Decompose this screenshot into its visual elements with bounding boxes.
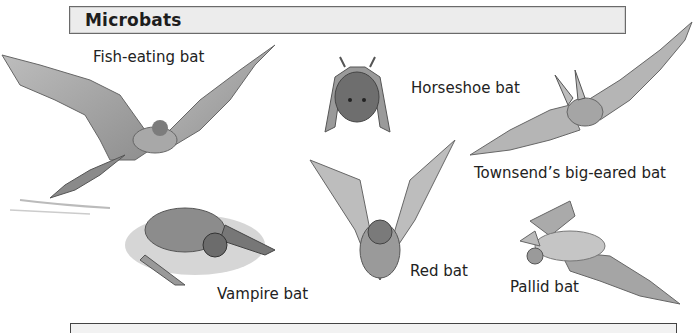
section-title: Microbats xyxy=(85,10,182,30)
bat-label-red: Red bat xyxy=(410,262,468,280)
bat-label-vampire: Vampire bat xyxy=(217,285,308,303)
bat-label-townsend: Townsend’s big-eared bat xyxy=(474,164,666,182)
vampire-bat-illustration xyxy=(115,190,295,290)
bat-label-pallid: Pallid bat xyxy=(510,278,579,296)
horseshoe-bat-illustration xyxy=(310,52,405,142)
next-section-header xyxy=(70,323,677,333)
bat-label-fish-eating: Fish-eating bat xyxy=(93,48,204,66)
townsend-bat-illustration xyxy=(470,20,695,160)
